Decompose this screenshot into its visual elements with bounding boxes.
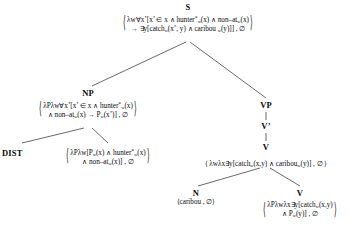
node-v-lower-sem-line2: ∧ Pw(y)] , ∅ [267,210,332,219]
angle-bracket-open: ⟨ [39,87,42,133]
node-np-semantics: ⟨ λPλw∀x’[x’ ∈ x ∧ hunter*w(x) ∧ non–atw… [39,101,137,120]
node-dist-semantics-group: ⟨ λPλw[Pw(x) ∧ hunter*w(x) ∧ non–atw(x)]… [66,145,150,167]
node-np-label: NP [39,88,137,98]
branch-np-to-nominal [92,128,108,143]
angle-bracket-close: ⟩ [324,160,327,169]
node-dist-label-group: DIST [2,148,23,158]
node-dist-semantics: ⟨ λPλw[Pw(x) ∧ hunter*w(x) ∧ non–atw(x)]… [66,148,150,167]
angle-bracket-close: ⟩ [147,134,150,180]
node-n-semantics: ⟨caribou , ∅⟩ [177,198,216,207]
node-v-upper-sem-line1: λwλx∃y[catchw(x,y) ∧ caribouw(y)] , ∅ [209,160,322,169]
node-n-label: N [177,188,216,198]
node-n-sem-line1: ⟨caribou , ∅⟩ [177,198,216,206]
angle-bracket-open: ⟨ [66,134,69,180]
branch-v-to-n [198,168,260,186]
node-s-semantics: ⟨ λw∀x’[x’ ∈ x ∧ hunter*w(x) ∧ non–atw(x… [123,15,253,34]
node-v-lower-semantics: ⟨ λPλwλx∃y[catchw(x,y) ∧ Pw(y)] , ∅ ⟩ [263,201,336,219]
node-vp-label: VP [260,100,272,110]
angle-bracket-open: ⟨ [263,188,266,230]
derivation-tree: S ⟨ λw∀x’[x’ ∈ x ∧ hunter*w(x) ∧ non–atw… [0,0,349,230]
node-s: S ⟨ λw∀x’[x’ ∈ x ∧ hunter*w(x) ∧ non–atw… [123,2,253,34]
node-vbar-label: V’ [261,121,270,131]
node-s-sem-line1: λw∀x’[x’ ∈ x ∧ hunter*w(x) ∧ non–atw(x) [127,15,249,25]
node-vp: VP [260,100,272,110]
node-np-sem-line1: λPλw∀x’[x’ ∈ x ∧ hunter*w(x) [43,101,133,111]
node-dist-label: DIST [2,148,23,158]
node-dist-sem-line2: ∧ non–atw(x)] , ∅ [70,158,146,167]
node-v-upper-semantics: ⟨ λwλx∃y[catchw(x,y) ∧ caribouw(y)] , ∅ … [205,160,326,169]
node-v-lower-label: V [263,188,336,198]
angle-bracket-open: ⟨ [123,1,126,47]
angle-bracket-close: ⟩ [134,87,137,133]
node-np-sem-line2: ∧ non–atw(x) → Pw(x’)] , ∅ [43,111,133,120]
node-s-label: S [123,2,253,12]
branch-v-to-vlower [270,168,300,186]
branch-s-to-vp [190,42,266,98]
node-n: N ⟨caribou , ∅⟩ [177,188,216,207]
node-v-upper: V ⟨ λwλx∃y[catchw(x,y) ∧ caribouw(y)] , … [205,142,326,170]
branch-s-to-np [92,42,186,86]
angle-bracket-close: ⟩ [250,1,253,47]
node-v-lower-sem-line1: λPλwλx∃y[catchw(x,y) [267,201,332,210]
node-vbar: V’ [261,121,270,131]
angle-bracket-close: ⟩ [334,188,337,230]
node-np: NP ⟨ λPλw∀x’[x’ ∈ x ∧ hunter*w(x) ∧ non–… [39,88,137,120]
node-v-lower: V ⟨ λPλwλx∃y[catchw(x,y) ∧ Pw(y)] , ∅ ⟩ [263,188,336,219]
branch-np-to-dist [22,128,84,143]
node-dist-sem-line1: λPλw[Pw(x) ∧ hunter*w(x) [70,148,146,158]
node-s-sem-line2: → ∃y[catchw(x’, y) ∧ caribou w(y)]] , ∅ [127,25,249,34]
node-v-upper-label: V [205,142,326,152]
